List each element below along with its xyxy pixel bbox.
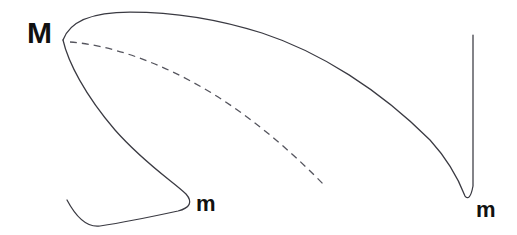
label-maximum-M: M — [27, 18, 52, 48]
curve-plot — [0, 0, 517, 235]
figure-canvas: M m m — [0, 0, 517, 235]
curve-lower-left-branch — [63, 40, 190, 226]
curve-upper-branch — [63, 12, 473, 198]
label-minimum-right-m: m — [476, 199, 496, 221]
label-minimum-left-m: m — [196, 193, 216, 215]
curve-dashed-branch — [70, 42, 325, 186]
